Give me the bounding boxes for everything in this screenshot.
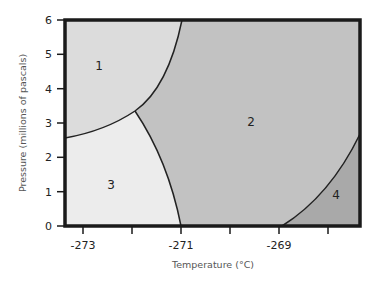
x-axis-title: Temperature (°C) bbox=[171, 259, 254, 270]
y-tick-label: 6 bbox=[45, 14, 52, 27]
x-tick-label: -271 bbox=[169, 239, 194, 252]
y-tick-label: 3 bbox=[45, 117, 52, 130]
x-tick-label: -273 bbox=[71, 239, 96, 252]
phase-diagram-chart: 0 1 2 3 4 5 6 -273 -271 -269 Temperature… bbox=[0, 0, 384, 282]
region-2-label: 2 bbox=[247, 115, 255, 129]
region-4-label: 4 bbox=[332, 188, 340, 202]
y-tick-label: 0 bbox=[45, 220, 52, 233]
y-tick-label: 2 bbox=[45, 151, 52, 164]
y-tick-label: 5 bbox=[45, 48, 52, 61]
region-1-label: 1 bbox=[95, 59, 103, 73]
y-tick-label: 1 bbox=[45, 186, 52, 199]
x-tick-label: -269 bbox=[267, 239, 292, 252]
region-3-label: 3 bbox=[107, 178, 115, 192]
y-tick-label: 4 bbox=[45, 83, 52, 96]
y-axis-title: Pressure (millions of pascals) bbox=[17, 54, 28, 192]
